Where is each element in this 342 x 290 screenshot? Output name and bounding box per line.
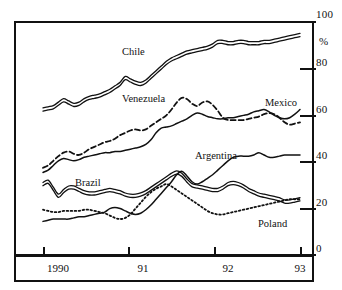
series-label-brazil: Brazil (75, 177, 101, 188)
y-tickmark-100 (300, 21, 316, 23)
x-axis-rule (14, 254, 314, 257)
x-tick-label-92: 92 (223, 262, 234, 274)
series-label-argentina: Argentina (195, 150, 237, 161)
y-tick-label-60: 60 (316, 104, 340, 115)
chart-root: 100 % 80 60 40 20 0 1990 91 92 93 Chile … (0, 0, 342, 290)
series-label-venezuela: Venezuela (122, 93, 165, 104)
y-tickmark-20 (300, 208, 316, 210)
y-tickmark-0 (300, 254, 316, 256)
x-tick-label-1990: 1990 (47, 262, 69, 274)
y-tickmark-80 (300, 68, 316, 70)
y-tick-label-0: 0 (316, 243, 340, 254)
x-tickmark-93 (300, 247, 302, 254)
y-tick-label-40: 40 (316, 150, 340, 161)
x-tickmark-91 (128, 247, 130, 254)
x-tickmark-92 (214, 247, 216, 254)
series-label-mexico: Mexico (265, 97, 297, 108)
x-tickmark-1990 (43, 247, 45, 254)
y-tick-label-20: 20 (316, 197, 340, 208)
series-label-chile: Chile (122, 46, 145, 57)
y-tick-label-100: 100 (316, 9, 340, 20)
x-tick-label-93: 93 (295, 262, 306, 274)
plot-frame (14, 21, 314, 282)
y-tick-label-80: 80 (316, 57, 340, 68)
y-tickmark-40 (300, 161, 316, 163)
series-label-poland: Poland (258, 218, 287, 229)
y-tickmark-60 (300, 115, 316, 117)
x-tick-label-91: 91 (138, 262, 149, 274)
y-axis-unit-label: % (319, 36, 328, 47)
